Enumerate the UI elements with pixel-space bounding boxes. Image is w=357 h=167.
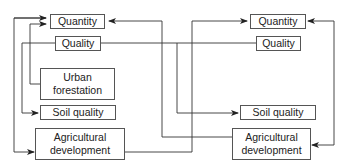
- left-quantity-box: Quantity: [50, 14, 105, 29]
- label: development: [50, 144, 110, 157]
- right-agri-to-left-quantity-line: [109, 21, 232, 137]
- label: development: [241, 144, 301, 157]
- right-outer-loop-line: [312, 21, 334, 145]
- right-quality-box: Quality: [256, 36, 301, 51]
- right-agricultural-development-box: Agriculturaldevelopment: [232, 128, 311, 160]
- left-agri-to-right-quantity-line: [125, 21, 247, 152]
- left-soil-quality-box: Soil quality: [40, 105, 116, 120]
- label: Soil quality: [53, 106, 104, 119]
- left-quality-box: Quality: [55, 36, 101, 51]
- label: Quantity: [58, 15, 97, 28]
- label: Quality: [262, 37, 295, 50]
- label: Agricultural: [245, 131, 298, 144]
- left-agricultural-development-box: Agriculturaldevelopment: [35, 128, 125, 160]
- label: Agricultural: [54, 131, 107, 144]
- label: Urban: [63, 71, 92, 84]
- right-soil-quality-box: Soil quality: [240, 105, 316, 120]
- label: forestation: [53, 84, 102, 97]
- left-urban-forestation-box: Urbanforestation: [40, 68, 115, 100]
- quality-to-right-soil-line: [177, 43, 238, 113]
- label: Soil quality: [253, 106, 304, 119]
- label: Quantity: [258, 15, 297, 28]
- label: Quality: [62, 37, 95, 50]
- right-quantity-box: Quantity: [250, 14, 306, 29]
